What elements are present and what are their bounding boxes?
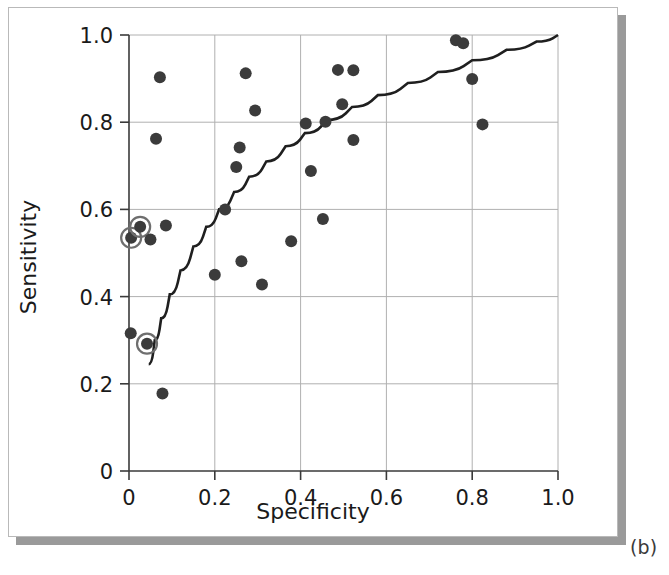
- y-tick-label: 0.6: [80, 198, 113, 222]
- data-point: [234, 141, 246, 153]
- y-tick-labels-group: 00.20.40.60.81.0: [80, 24, 113, 484]
- data-point: [235, 255, 247, 267]
- data-point: [476, 118, 488, 130]
- data-point: [125, 232, 137, 244]
- y-tick-label: 0.4: [80, 286, 113, 310]
- data-point: [347, 64, 359, 76]
- data-point: [256, 278, 268, 290]
- data-point: [209, 269, 221, 281]
- data-points-group: [121, 34, 488, 399]
- data-point: [249, 104, 261, 116]
- x-tick-label: 1.0: [541, 486, 574, 510]
- data-point: [230, 161, 242, 173]
- data-point: [305, 165, 317, 177]
- data-point: [144, 233, 156, 245]
- data-point: [160, 220, 172, 232]
- y-tick-label: 0.2: [80, 373, 113, 397]
- data-point: [125, 327, 137, 339]
- fitted-curve-group: [149, 35, 558, 364]
- x-axis-title: Specificity: [256, 499, 369, 524]
- data-point: [219, 203, 231, 215]
- data-point: [285, 235, 297, 247]
- data-point: [319, 116, 331, 128]
- data-point: [336, 98, 348, 110]
- x-tick-label: 0.8: [455, 486, 488, 510]
- data-point: [141, 338, 153, 350]
- data-point: [134, 221, 146, 233]
- data-point: [156, 387, 168, 399]
- data-point: [332, 64, 344, 76]
- data-point: [466, 73, 478, 85]
- data-point: [240, 67, 252, 79]
- data-point: [300, 118, 312, 130]
- x-tick-label: 0.2: [198, 486, 231, 510]
- x-tick-label: 0.6: [370, 486, 403, 510]
- data-point: [347, 134, 359, 146]
- data-point: [317, 213, 329, 225]
- figure-caption: (b): [630, 536, 658, 558]
- y-axis-title: Sensitivity: [16, 200, 41, 315]
- y-tick-label: 0: [100, 460, 113, 484]
- y-tick-label: 0.8: [80, 111, 113, 135]
- data-point: [457, 37, 469, 49]
- x-tick-label: 0: [122, 486, 135, 510]
- data-point: [154, 71, 166, 83]
- figure-root: 00.20.40.60.81.0 00.20.40.60.81.0 Specif…: [0, 0, 669, 575]
- data-point: [150, 133, 162, 145]
- fitted-curve: [149, 35, 558, 364]
- y-tick-label: 1.0: [80, 24, 113, 48]
- scatter-plot: 00.20.40.60.81.0 00.20.40.60.81.0 Specif…: [8, 7, 618, 537]
